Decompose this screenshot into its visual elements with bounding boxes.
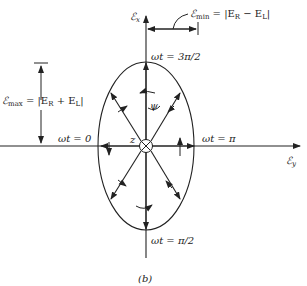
origin-label: z — [129, 134, 136, 145]
horizontal-axis-label: ℰy — [286, 155, 297, 168]
phase-label-right: ωt = π — [202, 133, 236, 144]
figure-caption: (b) — [138, 273, 152, 284]
phase-label-top: ωt = 3π/2 — [151, 51, 201, 62]
emin-label: ℰmin = |ER − EL| — [190, 8, 270, 21]
angle-label: ψ — [150, 100, 158, 111]
emax-label: ℰmax = |ER + EL| — [2, 95, 84, 108]
vertical-axis-label: ℰx — [130, 11, 140, 24]
phase-label-left: ωt = 0 — [58, 133, 92, 144]
polarization-diagram: ℰx ℰy z ψ ωt = 3π/2 ωt = 0 ωt = π ωt = π… — [0, 0, 307, 286]
phase-label-bottom: ωt = π/2 — [151, 235, 194, 246]
